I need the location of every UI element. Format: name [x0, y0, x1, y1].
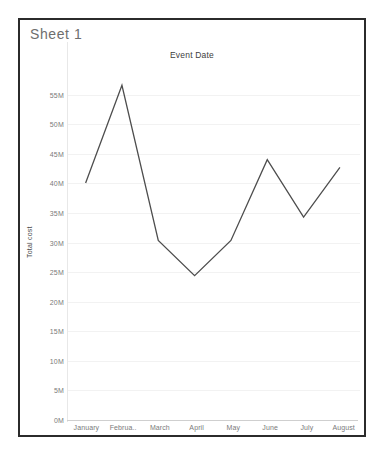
plot-line-svg [20, 20, 364, 435]
x-axis-tick-label: January [74, 424, 100, 431]
x-axis-tick-label: August [332, 424, 354, 431]
x-axis-tick-label: April [189, 424, 204, 431]
data-series-line [86, 85, 340, 275]
x-axis-tick-label: July [300, 424, 313, 431]
line-chart[interactable]: Event Date Total cost 0M5M10M15M20M25M30… [20, 20, 364, 435]
x-axis-tick-labels: JanuaryFebrua..MarchAprilMayJuneJulyAugu… [20, 424, 364, 440]
x-axis-tick-label: May [227, 424, 241, 431]
x-axis-tick-label: March [150, 424, 170, 431]
x-axis-tick-label: Februa.. [110, 424, 137, 431]
worksheet-frame: Sheet 1 Event Date Total cost 0M5M10M15M… [18, 18, 366, 437]
x-axis-tick-label: June [262, 424, 278, 431]
